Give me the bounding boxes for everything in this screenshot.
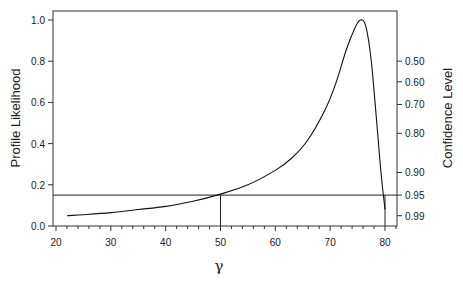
y2-tick-label: 0.90 [405,167,425,178]
y-axis-ticks: 0.00.20.40.60.81.0 [31,15,53,232]
y-tick-label: 0.8 [31,56,45,67]
y-tick-label: 0.0 [31,221,45,232]
plot-border [53,11,397,226]
y2-tick-label: 0.95 [405,190,425,201]
likelihood-curve [67,20,385,216]
y-tick-label: 0.6 [31,97,45,108]
x-tick-label: 80 [379,237,391,248]
y-tick-label: 0.2 [31,180,45,191]
y2-tick-label: 0.80 [405,128,425,139]
x-axis-title: γ [215,257,224,275]
x-tick-label: 70 [325,237,337,248]
y2-tick-label: 0.60 [405,77,425,88]
x-tick-label: 60 [270,237,282,248]
y2-axis-title: Confidence Level [440,68,455,169]
x-tick-label: 40 [160,237,172,248]
y-tick-label: 0.4 [31,139,45,150]
x-tick-label: 50 [215,237,227,248]
y2-tick-label: 0.99 [405,211,425,222]
y2-tick-label: 0.70 [405,99,425,110]
y-tick-label: 1.0 [31,15,45,26]
cutoff-lines [53,195,397,226]
confidence-axis-ticks: 0.500.600.700.800.900.950.99 [397,56,425,222]
y2-tick-label: 0.50 [405,56,425,67]
x-tick-label: 20 [50,237,62,248]
y-axis-title: Profile Likelihood [8,68,23,167]
x-tick-label: 30 [105,237,117,248]
profile-likelihood-chart: 20304050607080 0.00.20.40.60.81.0 0.500.… [0,0,463,283]
x-axis-ticks: 20304050607080 [50,226,396,248]
plot-frame [53,11,397,226]
